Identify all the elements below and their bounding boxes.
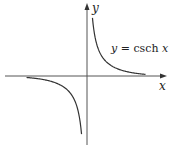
equation-x: x (162, 42, 168, 55)
curve-negative-branch (27, 77, 82, 134)
curve-equation-label: y = csch x (111, 43, 168, 54)
y-axis-label: y (92, 2, 99, 14)
plot-canvas (0, 0, 175, 152)
x-axis-label: x (159, 80, 166, 92)
x-axis-arrow-icon (160, 74, 167, 79)
equation-body: = csch (117, 42, 162, 55)
y-axis-arrow-icon (85, 3, 90, 10)
csch-graph-figure: y x y = csch x (0, 0, 175, 152)
